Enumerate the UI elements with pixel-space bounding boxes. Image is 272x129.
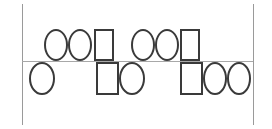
rectangle-shape (96, 62, 119, 95)
ellipse-shape (29, 62, 55, 95)
ellipse-shape (119, 62, 145, 95)
ellipse-shape (131, 29, 155, 61)
diagram-canvas (0, 0, 272, 129)
ellipse-shape (68, 29, 92, 61)
rectangle-shape (180, 62, 203, 95)
left-vertical-border (22, 4, 23, 125)
ellipse-shape (203, 62, 227, 95)
ellipse-shape (44, 29, 68, 61)
ellipse-shape (227, 62, 251, 95)
rectangle-shape (180, 29, 200, 61)
rectangle-shape (94, 29, 114, 61)
ellipse-shape (155, 29, 179, 61)
right-vertical-border (253, 4, 254, 125)
